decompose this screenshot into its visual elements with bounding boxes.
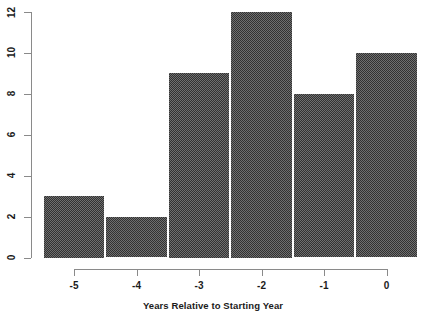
y-axis-tick-label: 10 [6, 42, 17, 64]
histogram-bar [230, 12, 293, 258]
x-axis-tick-label: -4 [122, 280, 152, 291]
histogram-plot: 024681012 -5-4-3-2-10 Years Relative to … [0, 0, 426, 320]
x-axis-tick [74, 269, 75, 276]
y-axis-tick-label: 8 [6, 83, 17, 105]
x-axis-tick [387, 269, 388, 276]
y-axis-tick-label: 2 [6, 206, 17, 228]
x-axis-title: Years Relative to Starting Year [0, 300, 426, 311]
y-axis-tick-label: 4 [6, 165, 17, 187]
x-axis-tick-label: -3 [184, 280, 214, 291]
y-axis-tick-label: 0 [6, 247, 17, 269]
y-axis-tick [24, 94, 31, 95]
x-axis-tick-label: -5 [59, 280, 89, 291]
x-axis-tick-label: -1 [309, 280, 339, 291]
x-axis-tick [199, 269, 200, 276]
y-axis-tick [24, 258, 31, 259]
x-axis-tick [137, 269, 138, 276]
y-axis-line [31, 12, 32, 258]
x-axis-tick-label: 0 [372, 280, 402, 291]
y-axis-tick [24, 53, 31, 54]
y-axis-tick-label: 12 [6, 1, 17, 23]
x-axis-line [74, 269, 387, 270]
x-axis-tick-label: -2 [247, 280, 277, 291]
histogram-bar [355, 53, 418, 258]
y-axis-tick [24, 217, 31, 218]
histogram-bar [168, 73, 231, 257]
x-axis-tick [324, 269, 325, 276]
histogram-bar [43, 196, 106, 257]
x-axis-tick [262, 269, 263, 276]
y-axis-tick-label: 6 [6, 124, 17, 146]
y-axis-tick [24, 12, 31, 13]
histogram-bar [293, 94, 356, 258]
histogram-bar [105, 217, 168, 258]
y-axis-tick [24, 135, 31, 136]
y-axis-tick [24, 176, 31, 177]
